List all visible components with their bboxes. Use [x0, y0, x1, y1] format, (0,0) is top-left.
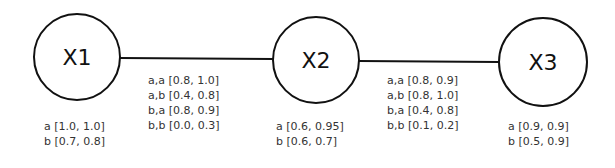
node-x1-cpt: a [1.0, 1.0] b [0.7, 0.8]: [44, 119, 105, 149]
cpt-row: b,a [0.4, 0.8]: [387, 103, 459, 118]
cpt-row: b,b [0.0, 0.3]: [148, 118, 220, 133]
cpt-row: b [0.5, 0.9]: [508, 134, 569, 149]
edge-x2-x3: [359, 61, 499, 62]
cpt-row: a,b [0.8, 1.0]: [387, 88, 459, 103]
cpt-row: a,a [0.8, 0.9]: [387, 73, 459, 88]
edge-x1-x2: [120, 58, 273, 59]
cpt-row: b,a [0.8, 0.9]: [148, 103, 220, 118]
cpt-row: b [0.7, 0.8]: [44, 134, 105, 149]
cpt-row: a [1.0, 1.0]: [44, 119, 105, 134]
cpt-row: a [0.9, 0.9]: [508, 119, 569, 134]
cpt-row: b [0.6, 0.7]: [276, 134, 344, 149]
node-x3-cpt: a [0.9, 0.9] b [0.5, 0.9]: [508, 119, 569, 149]
cpt-row: a [0.6, 0.95]: [276, 119, 344, 134]
cpt-row: a,a [0.8, 1.0]: [148, 73, 220, 88]
edge-x1-x2-cpt: a,a [0.8, 1.0] a,b [0.4, 0.8] b,a [0.8, …: [148, 73, 220, 133]
node-x1-label: X1: [62, 45, 91, 70]
cpt-row: b,b [0.1, 0.2]: [387, 118, 459, 133]
node-x3-label: X3: [528, 50, 557, 75]
edge-x2-x3-cpt: a,a [0.8, 0.9] a,b [0.8, 1.0] b,a [0.4, …: [387, 73, 459, 133]
node-x2-label: X2: [301, 48, 330, 73]
cpt-row: a,b [0.4, 0.8]: [148, 88, 220, 103]
node-x2-cpt: a [0.6, 0.95] b [0.6, 0.7]: [276, 119, 344, 149]
